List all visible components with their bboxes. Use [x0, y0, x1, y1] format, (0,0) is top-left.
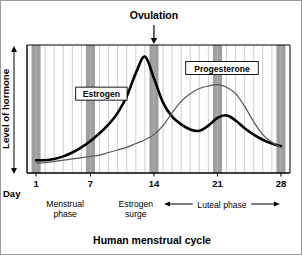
luteal-arrow-right-head-icon	[274, 201, 280, 206]
luteal-phase-label: Luteal phase	[197, 200, 246, 210]
menstrual-phase-label-line2: phase	[53, 209, 77, 219]
menstrual-phase-label-line1: Menstrual	[46, 199, 84, 209]
ovulation-arrow-head-icon	[151, 38, 157, 44]
y-axis-label: Level of hormone	[1, 69, 11, 149]
estrogen-surge-label-line1: Estrogen	[119, 199, 154, 209]
y-axis-arrow-up-icon	[11, 46, 17, 52]
x-axis-label: Day	[3, 188, 21, 199]
figure-panel: 17142128EstrogenProgesteroneLevel of hor…	[0, 0, 302, 255]
legend-label-progesterone: Progesterone	[194, 64, 250, 74]
xtick-label-7: 7	[88, 178, 93, 189]
menstrual-cycle-chart: 17142128EstrogenProgesteroneLevel of hor…	[1, 1, 302, 255]
luteal-arrow-left-head-icon	[164, 201, 170, 206]
ovulation-label: Ovulation	[130, 9, 178, 21]
figure-title: Human menstrual cycle	[93, 234, 211, 246]
legend-label-estrogen: Estrogen	[83, 89, 120, 99]
xtick-label-14: 14	[149, 178, 160, 189]
estrogen-surge-label-line2: surge	[125, 209, 147, 219]
xtick-label-1: 1	[33, 178, 39, 189]
xtick-label-21: 21	[212, 178, 223, 189]
y-axis-arrow-down-icon	[11, 168, 17, 174]
xtick-label-28: 28	[276, 178, 287, 189]
